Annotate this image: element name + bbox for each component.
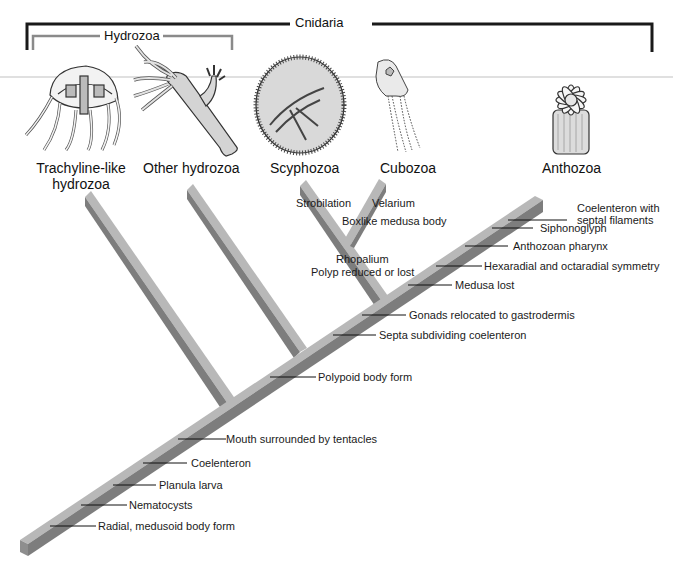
char-radial-medusoid: Radial, medusoid body form: [98, 520, 235, 532]
char-medusa-lost: Medusa lost: [455, 279, 514, 291]
taxon-other-hydrozoa: Other hydrozoa: [143, 160, 240, 176]
char-polypoid-body-form: Polypoid body form: [318, 371, 412, 383]
char-nematocysts: Nematocysts: [129, 499, 193, 511]
taxon-scyphozoa: Scyphozoa: [270, 160, 339, 176]
sea-anemone-icon: [553, 85, 589, 154]
box-jellyfish-icon: [376, 60, 420, 152]
char-mouth-tentacles: Mouth surrounded by tentacles: [226, 433, 377, 445]
char-siphonoglyph: Siphonoglyph: [540, 222, 607, 234]
char-rhopalium: Rhopalium: [336, 253, 389, 265]
hydra-polyp-icon: [134, 46, 237, 156]
char-gonads-relocated: Gonads relocated to gastrodermis: [409, 309, 575, 321]
char-strobilation: Strobilation: [296, 197, 351, 209]
char-septa-subdividing: Septa subdividing coelenteron: [379, 329, 526, 341]
scyphozoan-medusa-icon: [256, 57, 344, 153]
char-anthozoan-pharynx: Anthozoan pharynx: [513, 240, 608, 252]
taxon-trachyline-hydrozoa: Trachyline-like hydrozoa: [36, 160, 126, 192]
char-hexaradial-octaradial: Hexaradial and octaradial symmetry: [484, 260, 659, 272]
taxon-cubozoa: Cubozoa: [380, 160, 436, 176]
char-coelenteron-with: Coelenteron with: [577, 202, 660, 214]
taxon-anthozoa: Anthozoa: [542, 160, 601, 176]
taxon-label-line2: hydrozoa: [36, 176, 126, 192]
branch-other-hydrozoa: [187, 184, 307, 358]
char-planula-larva: Planula larva: [159, 479, 223, 491]
char-polyp-reduced: Polyp reduced or lost: [311, 266, 414, 278]
group-label-hydrozoa: Hydrozoa: [101, 29, 163, 43]
char-velarium: Velarium: [372, 197, 415, 209]
branch-cubozoa: [343, 179, 386, 248]
taxon-label-line1: Trachyline-like: [36, 160, 126, 176]
main-trunk: [20, 196, 543, 556]
group-label-cnidaria: Cnidaria: [292, 16, 346, 30]
char-coelenteron: Coelenteron: [191, 457, 251, 469]
jellyfish-trachyline-icon: [26, 66, 120, 150]
cladogram-canvas: [0, 0, 673, 576]
char-boxlike-medusa-body: Boxlike medusa body: [342, 215, 447, 227]
